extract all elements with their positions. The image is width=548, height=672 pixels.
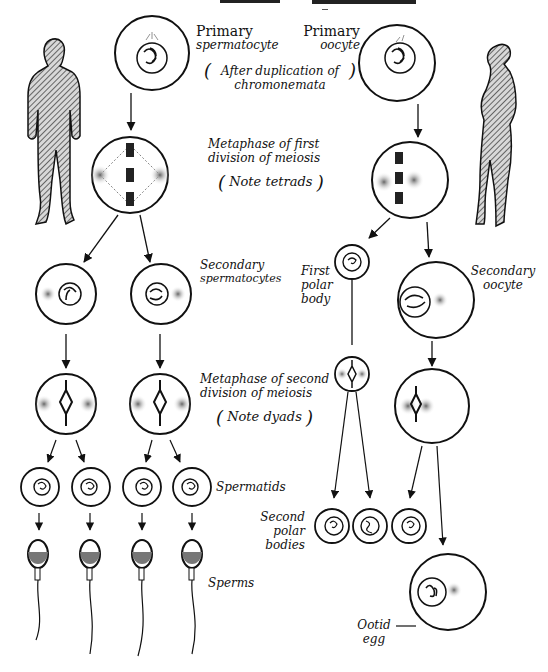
primary-spermatocyte-cell-icon bbox=[115, 16, 189, 90]
female-silhouette-icon bbox=[476, 44, 516, 226]
label-line: bodies bbox=[250, 538, 305, 552]
spermatids-icon bbox=[21, 468, 211, 506]
label-secondary-oocyte: Secondary oocyte bbox=[468, 264, 538, 292]
male-silhouette-icon bbox=[28, 39, 80, 224]
label-text: Note tetrads bbox=[229, 174, 312, 189]
label-line: Metaphase of first bbox=[208, 137, 320, 151]
label-line: Second bbox=[250, 510, 305, 524]
metaphase-two-male-left-icon bbox=[35, 374, 97, 434]
label-line: oocyte bbox=[468, 278, 538, 292]
diagram-drawing bbox=[0, 0, 548, 672]
label-line: First bbox=[301, 264, 333, 278]
label-ootid-egg: Ootid egg bbox=[352, 618, 396, 646]
first-polar-body-icon bbox=[335, 245, 369, 279]
metaphase-two-female-icon bbox=[395, 369, 469, 443]
label-second-polar-bodies: Second polar bodies bbox=[250, 510, 305, 552]
secondary-spermatocyte-right-icon bbox=[131, 264, 191, 324]
label-note-dyads: ( Note dyads ) bbox=[216, 410, 313, 425]
label-primary-spermatocyte: Primary spermatocyte bbox=[196, 24, 279, 52]
label-text: Sperms bbox=[208, 576, 254, 590]
paren-close: ) bbox=[306, 407, 313, 428]
label-line: spermatocyte bbox=[196, 38, 279, 52]
label-secondary-spermatocytes: Secondary spermatocytes bbox=[200, 258, 281, 286]
metaphase-two-male-right-icon bbox=[129, 374, 191, 434]
label-line: Secondary bbox=[200, 258, 281, 272]
label-note-tetrads: ( Note tetrads ) bbox=[218, 175, 324, 190]
label-line: Ootid bbox=[352, 618, 396, 632]
metaphase-one-female-cell-icon bbox=[372, 142, 448, 218]
label-line: body bbox=[301, 292, 333, 306]
label-sperms: Sperms bbox=[208, 576, 254, 590]
label-line: oocyte bbox=[300, 38, 360, 52]
label-line: spermatocytes bbox=[200, 272, 281, 286]
paren-close: ) bbox=[317, 172, 324, 193]
sperms-icon bbox=[28, 540, 202, 656]
second-polar-bodies-icon bbox=[315, 509, 426, 543]
label-line: Primary bbox=[196, 24, 279, 38]
label-line: division of meiosis bbox=[200, 386, 329, 400]
label-first-polar-body: First polar body bbox=[301, 264, 333, 306]
label-text: Note dyads bbox=[227, 409, 302, 424]
secondary-oocyte-icon bbox=[398, 262, 474, 338]
paren-open: ( bbox=[204, 64, 211, 78]
metaphase-one-male-cell-icon bbox=[90, 137, 170, 213]
label-line: division of meiosis bbox=[208, 151, 320, 165]
label-metaphase-first: Metaphase of first division of meiosis bbox=[208, 137, 320, 165]
ootid-egg-icon bbox=[396, 554, 486, 630]
label-metaphase-second: Metaphase of second division of meiosis bbox=[200, 372, 329, 400]
label-line: egg bbox=[352, 632, 396, 646]
label-text: Spermatids bbox=[216, 480, 286, 494]
secondary-spermatocyte-left-icon bbox=[36, 264, 96, 324]
label-line: chromonemata bbox=[200, 78, 360, 92]
label-line: Secondary bbox=[468, 264, 538, 278]
label-line: After duplication of bbox=[200, 64, 360, 78]
label-line: polar bbox=[250, 524, 305, 538]
title-fragment bbox=[220, 0, 416, 10]
label-primary-oocyte: Primary oocyte bbox=[300, 24, 360, 52]
label-after-duplication: ( After duplication of chromonemata ) bbox=[200, 64, 360, 92]
label-line: Metaphase of second bbox=[200, 372, 329, 386]
primary-oocyte-cell-icon bbox=[359, 25, 435, 101]
label-line: polar bbox=[301, 278, 333, 292]
paren-open: ( bbox=[216, 407, 223, 428]
metaphase-two-polar-body-icon bbox=[335, 357, 369, 391]
label-spermatids: Spermatids bbox=[216, 480, 286, 494]
meiosis-diagram: Primary spermatocyte Primary oocyte ( Af… bbox=[0, 0, 548, 672]
paren-open: ( bbox=[218, 172, 225, 193]
paren-close: ) bbox=[349, 64, 356, 78]
label-line: Primary bbox=[300, 24, 360, 38]
